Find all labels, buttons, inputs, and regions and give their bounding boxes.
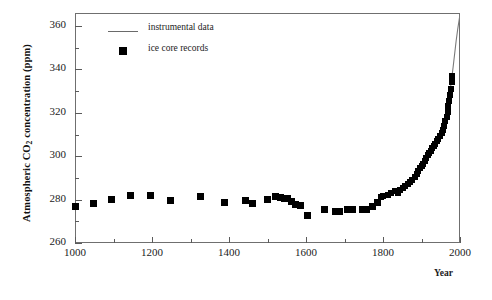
legend-label-ice-core-records: ice core records (148, 43, 208, 53)
ice-core-data-point (444, 114, 450, 120)
x-axis-tick-major (306, 237, 307, 243)
ice-core-data-point (264, 196, 271, 203)
x-axis-title: Year (434, 268, 453, 278)
y-axis-tick-major (75, 69, 82, 70)
legend-item-ice-core-records: ice core records (108, 42, 288, 63)
ice-core-data-point (349, 206, 356, 213)
x-axis-tick-major (152, 237, 153, 243)
y-axis-title: Atmospheric CO2 concentration (ppm) (18, 18, 36, 248)
chart-legend: instrumental data ice core records (108, 21, 288, 63)
x-axis-tick-label: 1800 (357, 246, 409, 258)
x-axis-tick-label: 1400 (203, 246, 255, 258)
ice-core-data-point (197, 193, 204, 200)
ice-core-data-point (445, 109, 451, 115)
ice-core-data-point (447, 92, 453, 98)
x-axis-tick-minor (191, 239, 192, 243)
ice-core-data-point (449, 73, 455, 79)
y-axis-tick-minor (75, 91, 79, 92)
y-axis-tick-minor (75, 135, 79, 136)
y-axis-tick-major (75, 26, 82, 27)
y-axis-tick-minor (75, 48, 79, 49)
x-axis-tick-label: 2000 (434, 246, 486, 258)
ice-core-data-point (304, 212, 311, 219)
x-axis-tick-major (383, 237, 384, 243)
ice-core-data-point (221, 199, 228, 206)
y-axis-tick-major (75, 200, 82, 201)
ice-core-data-point (448, 86, 454, 92)
ice-core-data-point (127, 192, 134, 199)
y-axis-title-post: concentration (ppm) (21, 44, 32, 141)
ice-core-data-point (72, 203, 79, 210)
ice-core-data-point (108, 196, 115, 203)
x-axis-tick-minor (345, 239, 346, 243)
ice-core-data-point (321, 206, 328, 213)
ice-core-data-point (445, 103, 451, 109)
co2-chart-figure: Atmospheric CO2 concentration (ppm) Year… (0, 0, 492, 300)
ice-core-data-point (90, 200, 97, 207)
legend-square-swatch (119, 47, 127, 55)
ice-core-data-point (249, 200, 256, 207)
ice-core-data-point (297, 202, 304, 209)
legend-item-instrumental-data: instrumental data (108, 21, 288, 42)
y-axis-tick-label: 280 (26, 192, 66, 204)
y-axis-tick-label: 360 (26, 18, 66, 30)
ice-core-data-point (147, 192, 154, 199)
y-axis-tick-label: 340 (26, 61, 66, 73)
x-axis-tick-minor (268, 239, 269, 243)
x-axis-tick-major (229, 237, 230, 243)
y-axis-tick-label: 300 (26, 148, 66, 160)
legend-label-instrumental-data: instrumental data (148, 22, 214, 32)
y-axis-tick-label: 320 (26, 105, 66, 117)
ice-core-data-point (374, 199, 381, 206)
y-axis-tick-major (75, 113, 82, 114)
x-axis-tick-minor (422, 239, 423, 243)
x-axis-tick-major (460, 237, 461, 243)
y-axis-tick-minor (75, 178, 79, 179)
x-axis-tick-label: 1200 (126, 246, 178, 258)
x-axis-tick-minor (114, 239, 115, 243)
y-axis-tick-major (75, 156, 82, 157)
legend-line-swatch (108, 31, 138, 32)
y-axis-title-subscript: 2 (25, 141, 34, 145)
y-axis-tick-minor (75, 221, 79, 222)
ice-core-data-point (167, 197, 174, 204)
ice-core-data-point (446, 98, 452, 104)
y-axis-tick-major (75, 243, 82, 244)
x-axis-tick-label: 1000 (49, 246, 101, 258)
x-axis-tick-label: 1600 (280, 246, 332, 258)
x-axis-tick-major (75, 237, 76, 243)
ice-core-data-point (336, 208, 343, 215)
ice-core-data-point (449, 79, 455, 85)
